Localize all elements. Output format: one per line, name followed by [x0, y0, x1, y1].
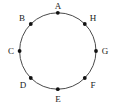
point-marker-c [18, 49, 22, 53]
circle-diagram: ABCDEFGH [0, 0, 115, 110]
circle-diagram-canvas [0, 0, 115, 110]
point-marker-b [29, 22, 33, 26]
point-marker-f [83, 76, 87, 80]
point-marker-g [94, 49, 98, 53]
point-marker-h [83, 22, 87, 26]
point-marker-a [56, 11, 60, 15]
point-markers-group [18, 11, 98, 91]
point-marker-e [56, 87, 60, 91]
point-marker-d [29, 76, 33, 80]
